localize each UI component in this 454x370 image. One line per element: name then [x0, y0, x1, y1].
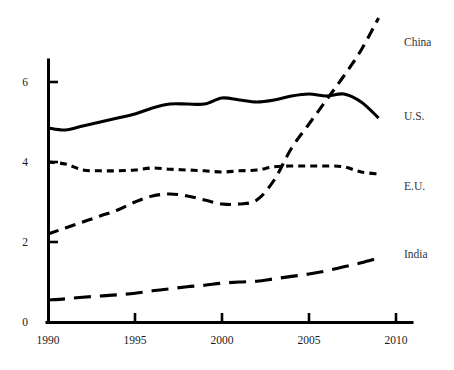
x-tick-label-1990: 1990: [37, 334, 60, 346]
series-line-us: [48, 94, 379, 130]
y-tick-label-6: 6: [22, 76, 28, 88]
x-tick-label-2010: 2010: [385, 334, 408, 346]
chart-container: 6 4 2 0 1990 1995 2000 2005 2010 China U…: [0, 0, 454, 370]
x-tick-label-2000: 2000: [211, 334, 234, 346]
y-tick-label-4: 4: [22, 156, 28, 168]
series-label-india: India: [404, 248, 428, 260]
series-line-eu: [48, 162, 379, 174]
x-tick-marks: [135, 313, 396, 322]
series-label-china: China: [404, 36, 431, 48]
y-tick-label-2: 2: [22, 236, 28, 248]
series-label-eu: E.U.: [404, 180, 425, 192]
x-tick-label-1995: 1995: [124, 334, 147, 346]
series-line-china: [48, 18, 379, 234]
y-tick-label-0: 0: [22, 316, 28, 328]
series-label-us: U.S.: [404, 110, 425, 122]
series-line-india: [48, 258, 379, 300]
line-chart: 6 4 2 0 1990 1995 2000 2005 2010 China U…: [0, 0, 454, 370]
x-tick-label-2005: 2005: [298, 334, 321, 346]
